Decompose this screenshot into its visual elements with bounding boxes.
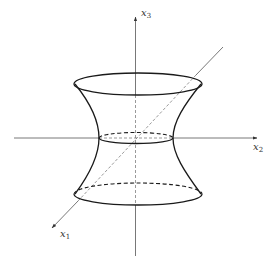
- top-ellipse: [74, 73, 202, 95]
- bottom-ellipse: [74, 183, 202, 205]
- hyperboloid-surface: [75, 84, 201, 194]
- x1-label-subscript: 1: [66, 233, 70, 241]
- left-profile-curve: [75, 84, 99, 194]
- x1-axis: [52, 47, 223, 228]
- right-profile-curve: [173, 84, 201, 194]
- x3-axis-label: x3: [141, 8, 151, 20]
- x1-axis-label: x1: [60, 229, 70, 241]
- x2-axis-label: x2: [253, 142, 263, 154]
- x2-label-subscript: 2: [259, 146, 263, 154]
- hyperboloid-diagram: x3 x2 x1: [0, 0, 277, 271]
- x3-label-subscript: 3: [147, 12, 151, 20]
- diagram-canvas: [0, 0, 277, 271]
